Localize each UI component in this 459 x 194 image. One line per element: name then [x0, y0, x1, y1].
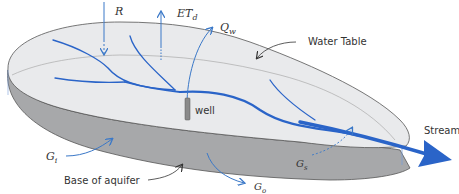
label-et: ETd	[176, 7, 198, 22]
label-gi: Gi	[46, 150, 58, 165]
label-base-of-aquifer: Base of aquifer	[64, 175, 141, 186]
label-water-table: Water Table	[308, 36, 367, 47]
label-stream: Stream	[424, 125, 459, 136]
base-pointer	[148, 165, 182, 180]
label-recharge: R	[114, 5, 123, 18]
label-qw: Qw	[220, 21, 236, 36]
label-go: Go	[254, 181, 266, 194]
well-icon	[185, 98, 190, 120]
aquifer-diagram: R ETd Qw Water Table well Stream Gi Gs G…	[0, 0, 459, 194]
label-well: well	[195, 105, 215, 116]
